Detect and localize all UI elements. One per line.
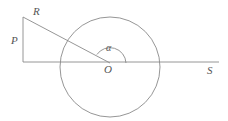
label-S: S [207,65,213,76]
figure-canvas [0,0,228,121]
label-P: P [11,35,18,46]
label-alpha: α [106,43,111,53]
slanted-radius-line [23,17,110,63]
label-O: O [104,64,112,75]
geometry-figure: R P α O S [0,0,228,121]
angle-arc-path [97,48,126,63]
label-R: R [33,6,40,17]
